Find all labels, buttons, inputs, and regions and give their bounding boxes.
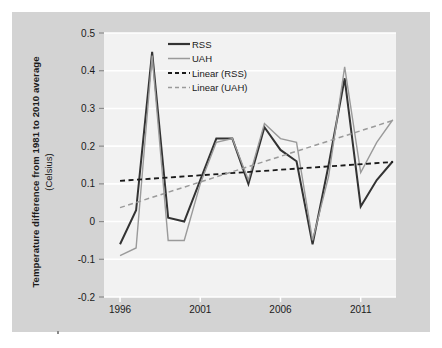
legend-label: Linear (UAH) [192,82,247,93]
legend-label: UAH [192,53,212,64]
stray-mark [57,331,59,334]
y-tick-label: 0.1 [81,178,95,189]
x-tick-label: 2011 [350,304,372,315]
y-tick-label: 0.3 [81,103,95,114]
y-tick-label: -0.2 [78,292,96,303]
y-tick-label: 0.5 [81,28,95,39]
x-axis-ticks: 1996200120062011 [109,297,372,315]
y-tick-label: 0 [89,216,95,227]
x-tick-label: 1996 [109,304,132,315]
y-axis-ticks: 0.50.40.30.20.10-0.1-0.2 [78,28,104,303]
legend-label: Linear (RSS) [192,68,247,79]
y-tick-label: 0.4 [81,65,95,76]
chart-svg: 0.50.40.30.20.10-0.1-0.2 199620012006201… [0,0,442,348]
chart-figure: Temperature difference from 1981 to 2010… [0,0,442,348]
x-tick-label: 2001 [189,304,212,315]
x-tick-label: 2006 [269,304,292,315]
y-tick-label: 0.2 [81,141,95,152]
y-tick-label: -0.1 [78,254,96,265]
legend-label: RSS [192,39,212,50]
